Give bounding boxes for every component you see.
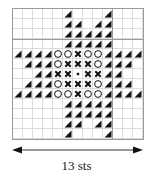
chart-cell: [73, 19, 83, 29]
chart-cell: [63, 59, 73, 69]
chart-cell: [133, 129, 143, 139]
triangle-icon: [23, 49, 33, 59]
chart-cell: [43, 79, 53, 89]
chart-cell: [33, 119, 43, 129]
chart-cell: [133, 109, 143, 119]
chart-cell: [63, 29, 73, 39]
chart-cell: [43, 89, 53, 99]
width-arrow-icon: [12, 145, 143, 155]
triangle-icon: [83, 39, 93, 49]
chart-cell: [63, 99, 73, 109]
triangle-icon: [113, 89, 123, 99]
chart-cell: [43, 59, 53, 69]
chart-cell: [53, 79, 63, 89]
chart-cell: [63, 49, 73, 59]
triangle-icon: [33, 49, 43, 59]
chart-cell: [63, 109, 73, 119]
chart-cell: [23, 29, 33, 39]
chart-cell: [113, 9, 123, 19]
triangle-icon: [43, 69, 53, 79]
chart-cell: [123, 79, 133, 89]
chart-cell: [83, 59, 93, 69]
triangle-icon: [73, 109, 83, 119]
chart-cell: [23, 39, 33, 49]
triangle-icon: [63, 109, 73, 119]
chart-cell: [83, 9, 93, 19]
triangle-icon: [93, 29, 103, 39]
triangle-icon: [63, 29, 73, 39]
chart-cell: [93, 79, 103, 89]
chart-cell: [93, 49, 103, 59]
chart-cell: [123, 59, 133, 69]
chart-cell: [123, 9, 133, 19]
chart-cell: [43, 99, 53, 109]
chart-cell: [123, 109, 133, 119]
chart-cell: [73, 39, 83, 49]
chart-cell: [33, 49, 43, 59]
triangle-icon: [113, 79, 123, 89]
cross-icon: [63, 79, 73, 89]
chart-cell: [23, 49, 33, 59]
chart-cell: [133, 99, 143, 109]
chart-cell: [33, 89, 43, 99]
chart-cell: [113, 89, 123, 99]
chart-cell: [23, 99, 33, 109]
triangle-icon: [113, 49, 123, 59]
triangle-icon: [133, 49, 143, 59]
chart-cell: [73, 99, 83, 109]
chart-cell: [133, 119, 143, 129]
triangle-icon: [43, 89, 53, 99]
chart-cell: [63, 9, 73, 19]
cross-icon: [63, 69, 73, 79]
chart-cell: [73, 79, 83, 89]
cross-icon: [73, 79, 83, 89]
circle-icon: [93, 79, 103, 89]
chart-cell: [83, 89, 93, 99]
circle-icon: [53, 79, 63, 89]
chart-cell: [13, 119, 23, 129]
chart-cell: [93, 109, 103, 119]
triangle-icon: [93, 99, 103, 109]
triangle-icon: [83, 109, 93, 119]
chart-cell: [53, 99, 63, 109]
chart-cell: [43, 39, 53, 49]
chart-cell: [123, 19, 133, 29]
cross-icon: [73, 49, 83, 59]
chart-cell: [63, 89, 73, 99]
chart-cell: [13, 79, 23, 89]
triangle-icon: [93, 19, 103, 29]
triangle-icon: [43, 49, 53, 59]
chart-cell: [13, 69, 23, 79]
chart-cell: [83, 79, 93, 89]
chart-cell: [83, 99, 93, 109]
triangle-icon: [23, 59, 33, 69]
triangle-icon: [33, 89, 43, 99]
chart-cell: [43, 19, 53, 29]
chart-cell: [73, 59, 83, 69]
stitch-chart: [12, 8, 144, 140]
chart-cell: [93, 19, 103, 29]
triangle-icon: [63, 129, 73, 139]
chart-cell: [43, 9, 53, 19]
chart-cell: [93, 59, 103, 69]
triangle-icon: [113, 69, 123, 79]
chart-cell: [33, 19, 43, 29]
cross-icon: [73, 89, 83, 99]
chart-cell: [123, 119, 133, 129]
chart-cell: [43, 119, 53, 129]
chart-cell: [83, 49, 93, 59]
chart-cell: [13, 49, 23, 59]
chart-cell: [133, 69, 143, 79]
triangle-icon: [13, 49, 23, 59]
circle-icon: [93, 49, 103, 59]
triangle-icon: [113, 59, 123, 69]
chart-cell: [73, 89, 83, 99]
triangle-icon: [123, 89, 133, 99]
triangle-icon: [73, 119, 83, 129]
chart-cell: [53, 59, 63, 69]
chart-cell: [73, 9, 83, 19]
chart-cell: [53, 69, 63, 79]
circle-icon: [93, 89, 103, 99]
chart-cell: [33, 59, 43, 69]
chart-cell: [63, 39, 73, 49]
